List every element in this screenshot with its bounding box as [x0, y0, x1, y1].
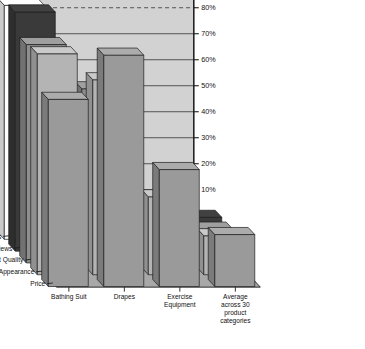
bar-side-face	[97, 48, 104, 286]
x-axis-labels: Bathing SuitDrapesExerciseEquipmentAvera…	[51, 287, 251, 325]
x-axis-label: Average	[223, 293, 248, 301]
bar-front-face	[48, 99, 88, 286]
y-axis-tick-label: 50%	[201, 81, 216, 90]
z-axis-tick	[25, 259, 31, 260]
z-axis-label: Appearance	[0, 268, 35, 276]
three-d-bar-chart: 0%10%20%30%40%50%60%70%80%90%PriceAppear…	[0, 0, 365, 349]
bar-side-face	[208, 227, 215, 286]
bar	[97, 48, 144, 286]
x-axis-label: Bathing Suit	[51, 293, 87, 301]
bar-top-face	[9, 5, 56, 12]
bar-side-face	[20, 37, 27, 262]
z-axis-label: Product Quality	[0, 256, 24, 264]
z-axis-tick	[47, 283, 53, 284]
z-axis-label: Price	[30, 280, 45, 287]
y-axis-tick-label: 80%	[201, 3, 216, 12]
z-axis-label: Reviews	[0, 245, 13, 252]
z-axis-tick	[36, 271, 42, 272]
bar-side-face	[0, 0, 4, 239]
y-axis-tick-label: 70%	[201, 29, 216, 38]
bar-top-face	[97, 48, 144, 55]
y-axis-tick-label: 20%	[201, 159, 216, 168]
y-axis-tick-label: 10%	[201, 185, 216, 194]
x-axis-label: across 30	[221, 301, 250, 308]
bar-top-face	[20, 37, 67, 44]
bar-side-face	[42, 92, 49, 286]
bar-side-face	[31, 47, 38, 275]
x-axis-label: Drapes	[114, 293, 136, 301]
chart-container: 0%10%20%30%40%50%60%70%80%90%PriceAppear…	[0, 0, 365, 349]
bar-front-face	[159, 170, 199, 287]
bar-top-face	[31, 47, 78, 54]
bar	[208, 227, 255, 286]
x-axis-label: product	[224, 309, 246, 317]
bar	[42, 92, 89, 286]
y-axis-tick-label: 30%	[201, 133, 216, 142]
bar-side-face	[153, 162, 160, 286]
bar-front-face	[104, 55, 144, 286]
z-axis-tick	[14, 248, 20, 249]
bar-side-face	[9, 5, 16, 251]
x-axis-label: Exercise	[167, 293, 193, 300]
bar	[153, 162, 200, 286]
x-axis-label: categories	[220, 317, 251, 325]
y-axis-tick-label: 60%	[201, 55, 216, 64]
bar-top-face	[153, 162, 200, 169]
y-axis-tick-label: 40%	[201, 107, 216, 116]
bar-front-face	[215, 235, 255, 287]
z-axis-tick	[3, 236, 9, 237]
bar-top-face	[208, 227, 255, 234]
bar-top-face	[42, 92, 89, 99]
x-axis-label: Equipment	[164, 301, 196, 309]
